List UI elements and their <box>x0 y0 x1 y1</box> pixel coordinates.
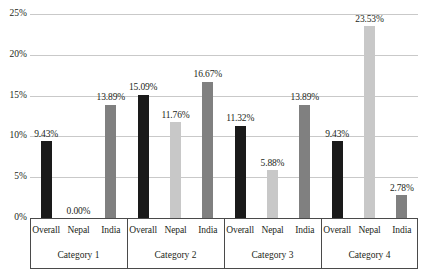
x-axis-series-label: India <box>192 218 224 243</box>
y-axis-tick-label: 5% <box>0 172 27 182</box>
bar-overall: 11.32% <box>235 126 246 218</box>
category-separator <box>321 243 322 269</box>
x-axis-category-labels: Category 1Category 2Category 3Category 4 <box>30 243 418 269</box>
bar-value-label: 11.76% <box>161 111 189 121</box>
x-axis-category-label: Category 3 <box>224 243 321 269</box>
bar-chart: 0%5%10%15%20%25% 9.43%0.00%13.89%15.09%1… <box>0 0 431 276</box>
bar-india: 13.89% <box>299 105 310 218</box>
x-axis-category-label: Category 2 <box>127 243 224 269</box>
bar-india: 16.67% <box>202 82 213 218</box>
bar-group: 9.43%0.00%13.89% <box>30 14 127 218</box>
bar-value-label: 16.67% <box>194 70 222 80</box>
x-axis-series-labels: OverallNepalIndiaOverallNepalIndiaOveral… <box>30 218 418 243</box>
y-axis-tick-label: 10% <box>0 132 27 142</box>
category-separator <box>127 243 128 269</box>
bar-nepal: 11.76% <box>170 122 181 218</box>
bar-slot: 2.78% <box>386 14 418 218</box>
bar-slot: 5.88% <box>256 14 288 218</box>
x-axis-group: OverallNepalIndia <box>224 218 321 243</box>
category-separator <box>321 218 322 243</box>
bar-value-label: 13.89% <box>97 93 125 103</box>
bar-overall: 9.43% <box>41 141 52 218</box>
x-axis-group: OverallNepalIndia <box>30 218 127 243</box>
category-separator <box>224 218 225 243</box>
bar-value-label: 5.88% <box>261 159 285 169</box>
bar-slot: 23.53% <box>353 14 385 218</box>
bar-slot: 9.43% <box>30 14 62 218</box>
bar-nepal: 5.88% <box>267 170 278 218</box>
bar-group: 15.09%11.76%16.67% <box>127 14 224 218</box>
bar-group: 11.32%5.88%13.89% <box>224 14 321 218</box>
x-axis-group: OverallNepalIndia <box>127 218 224 243</box>
x-axis-series-label: India <box>289 218 321 243</box>
bar-overall: 9.43% <box>332 141 343 218</box>
bar-slot: 13.89% <box>289 14 321 218</box>
bar-slot: 11.32% <box>224 14 256 218</box>
bar-india: 13.89% <box>105 105 116 218</box>
x-axis-category-label: Category 4 <box>321 243 418 269</box>
y-axis-tick-label: 25% <box>0 9 27 19</box>
x-axis: OverallNepalIndiaOverallNepalIndiaOveral… <box>30 218 418 269</box>
category-separator <box>224 243 225 269</box>
bar-value-label: 15.09% <box>129 83 157 93</box>
x-axis-category-label: Category 1 <box>30 243 127 269</box>
x-axis-series-label: India <box>95 218 127 243</box>
bar-value-label: 11.32% <box>226 114 254 124</box>
x-axis-series-label: Overall <box>321 218 353 243</box>
bar-slot: 11.76% <box>159 14 191 218</box>
x-axis-series-label: Nepal <box>256 218 288 243</box>
x-axis-series-label: India <box>386 218 418 243</box>
y-axis-tick-label: 15% <box>0 91 27 101</box>
bar-slot: 9.43% <box>321 14 353 218</box>
bar-value-label: 9.43% <box>34 130 58 140</box>
x-axis-series-label: Nepal <box>159 218 191 243</box>
bar-groups: 9.43%0.00%13.89%15.09%11.76%16.67%11.32%… <box>30 14 418 218</box>
x-axis-series-label: Nepal <box>62 218 94 243</box>
x-axis-series-label: Overall <box>127 218 159 243</box>
bar-value-label: 9.43% <box>325 130 349 140</box>
bar-overall: 15.09% <box>138 95 149 218</box>
bar-group: 9.43%23.53%2.78% <box>321 14 418 218</box>
category-separator <box>127 218 128 243</box>
x-axis-group: OverallNepalIndia <box>321 218 418 243</box>
bar-value-label: 2.78% <box>390 184 414 194</box>
bar-slot: 15.09% <box>127 14 159 218</box>
plot-area: 9.43%0.00%13.89%15.09%11.76%16.67%11.32%… <box>30 14 418 218</box>
x-axis-series-label: Nepal <box>353 218 385 243</box>
bar-slot: 16.67% <box>192 14 224 218</box>
bar-india: 2.78% <box>396 195 407 218</box>
bar-value-label: 23.53% <box>355 15 383 25</box>
bar-value-label: 13.89% <box>291 93 319 103</box>
x-axis-series-label: Overall <box>224 218 256 243</box>
bar-slot: 13.89% <box>95 14 127 218</box>
bar-value-label: 0.00% <box>67 207 91 217</box>
bar-nepal: 23.53% <box>364 26 375 218</box>
y-axis-tick-label: 20% <box>0 50 27 60</box>
x-axis-series-label: Overall <box>30 218 62 243</box>
y-axis-tick-label: 0% <box>0 213 27 223</box>
bar-slot: 0.00% <box>62 14 94 218</box>
